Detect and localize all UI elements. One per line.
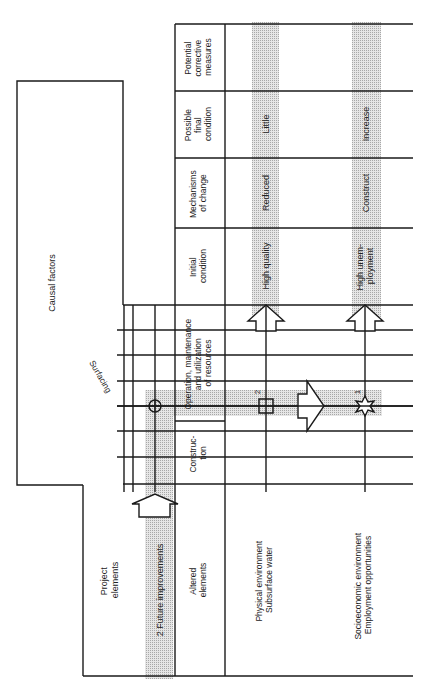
socio-mechanism: Construct [361,173,371,212]
header-mechanisms: Mechanisms of change [188,168,208,218]
physical-mechanism: Reduced [261,175,271,211]
socio-marker-number: 1 [353,389,362,394]
header-altered: Altered elements [188,563,208,598]
physical-final-condition: Little [261,114,271,133]
socio-final-condition: Increase [361,107,371,142]
header-initial: Initial condition [188,249,208,283]
project-elements-title: Project elements [99,561,120,598]
header-final: Possible final condition [183,107,213,142]
header-labels: Potential corrective measures Possible f… [183,37,213,597]
physical-row-element: Physical environment Subsurface water [254,538,274,621]
physical-marker-number: 2 [253,389,262,394]
header-corrective: Potential corrective measures [183,37,213,76]
impact-matrix-diagram: Potential corrective measures Possible f… [0,0,424,682]
header-construction: Construc- tion [188,433,208,472]
future-improvements-label: 2 Future improvements [155,543,165,636]
socio-row-element: Socioeconomic environment Employment opp… [353,530,373,639]
physical-initial-condition: High quality [261,242,271,290]
surfacing-label: Surfacing [87,358,114,394]
causal-factors-box: Causal factors Surfacing [17,81,123,485]
causal-factors-title: Causal factors [47,254,57,312]
socio-initial-condition: High unem- ployment [355,241,375,290]
